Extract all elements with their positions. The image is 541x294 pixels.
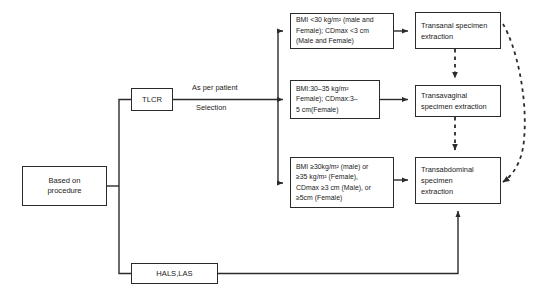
node-hals-las[interactable]: HALS,LAS — [131, 263, 218, 284]
node-criteria-2-label: BMI:30–35 kg/m² Female); CDmax:3– 5 cm(F… — [296, 84, 374, 116]
node-criteria-1-label: BMI <30 kg/m² (male and Female); CDmax <… — [296, 15, 388, 47]
node-based-on-procedure-label: Based on procedure — [27, 176, 102, 196]
edge-procedure-trunk — [107, 100, 131, 274]
node-transabdominal-label: Transabdominal specimen extraction — [421, 164, 495, 197]
edge-label-as-per-patient: As per patient — [192, 83, 238, 92]
node-hals-las-label: HALS,LAS — [132, 269, 217, 279]
edge-label-selection: Selection — [196, 103, 226, 112]
edge-dashed-curve — [503, 24, 525, 182]
node-criteria-bmi-over-30[interactable]: BMI ≥30kg/m² (male) or ≥35 kg/m² (Female… — [290, 157, 394, 208]
node-criteria-3-label: BMI ≥30kg/m² (male) or ≥35 kg/m² (Female… — [296, 162, 388, 204]
node-criteria-bmi-30-35[interactable]: BMI:30–35 kg/m² Female); CDmax:3– 5 cm(F… — [290, 80, 380, 119]
node-transabdominal-specimen-extraction[interactable]: Transabdominal specimen extraction — [415, 157, 501, 204]
node-tlcr-label: TLCR — [132, 95, 172, 105]
flowchart-canvas: Based on procedure TLCR HALS,LAS BMI <30… — [0, 0, 541, 294]
edge-hals-to-transabdominal — [218, 211, 458, 274]
node-criteria-bmi-under-30[interactable]: BMI <30 kg/m² (male and Female); CDmax <… — [290, 13, 394, 49]
node-transvaginal-label: Transavaginal specimen extraction — [421, 90, 495, 112]
node-tlcr[interactable]: TLCR — [131, 88, 173, 111]
node-transanal-label: Transanal specimen extraction — [421, 20, 495, 42]
node-transvaginal-specimen-extraction[interactable]: Transavaginal specimen extraction — [415, 85, 501, 117]
node-transanal-specimen-extraction[interactable]: Transanal specimen extraction — [415, 12, 501, 49]
node-based-on-procedure[interactable]: Based on procedure — [22, 166, 107, 206]
edge-tlcr-spine — [173, 31, 283, 183]
